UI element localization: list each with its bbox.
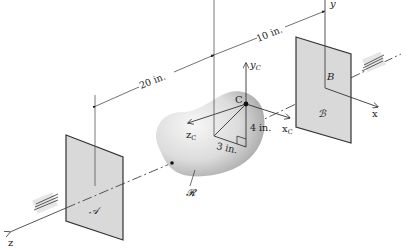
plate-a	[66, 95, 123, 240]
bearing-right	[362, 52, 386, 73]
label-plate-b: ℬ	[318, 108, 327, 119]
plate-b	[296, 37, 351, 143]
label-body-r: 𝓡	[186, 187, 197, 198]
dimension-10in: 10 in.	[255, 23, 284, 43]
label-point-c: C	[235, 94, 243, 105]
label-axis-x: x	[372, 108, 378, 119]
label-axis-xc: xC	[282, 123, 293, 136]
bearing-left	[32, 192, 58, 213]
rigid-body-shaft-diagram: 20 in. 10 in. 4 in. 3 in. C B ℬ 𝒜 𝓡 x y …	[0, 0, 406, 248]
shaft-point	[170, 161, 174, 165]
label-axis-yc: yC	[249, 59, 261, 72]
dimension-4in: 4 in.	[250, 122, 271, 133]
label-axis-z: z	[8, 237, 13, 248]
label-point-b: B	[326, 71, 334, 82]
label-axis-y: y	[329, 0, 336, 9]
dimension-20in: 20 in.	[138, 70, 167, 90]
centroid-point-c	[244, 102, 249, 107]
